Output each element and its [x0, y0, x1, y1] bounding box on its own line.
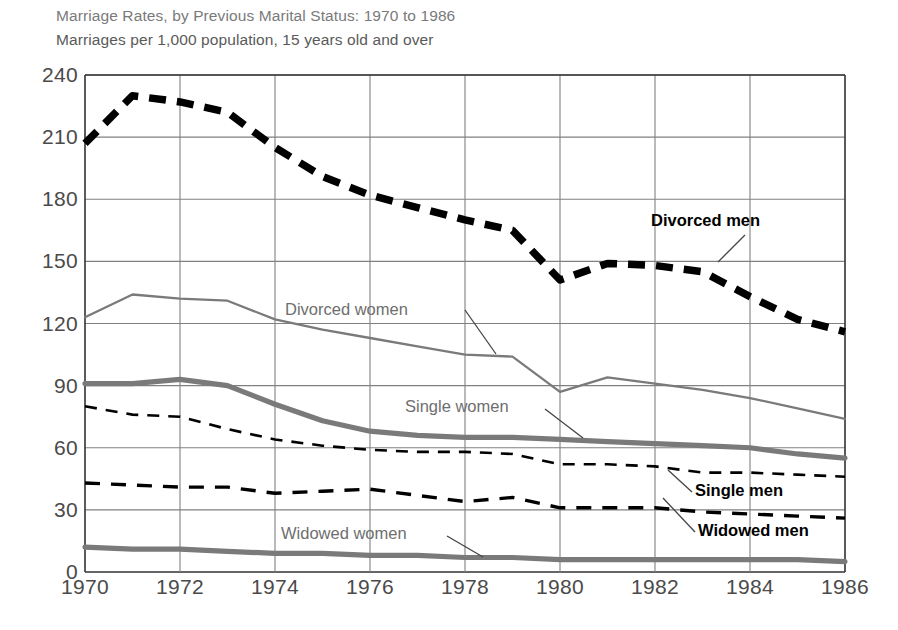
- y-tick-label: 150: [16, 249, 78, 273]
- y-axis-tick-labels: 0306090120150180210240: [0, 75, 78, 572]
- y-tick-label: 30: [16, 498, 78, 522]
- series-line: [85, 406, 845, 476]
- x-tick-label: 1972: [156, 575, 204, 599]
- marriage-rates-chart: Marriage Rates, by Previous Marital Stat…: [0, 0, 898, 630]
- y-tick-label: 60: [16, 436, 78, 460]
- y-tick-label: 120: [16, 312, 78, 336]
- series-label: Widowed women: [281, 524, 407, 543]
- chart-title: Marriage Rates, by Previous Marital Stat…: [56, 7, 455, 25]
- chart-subtitle: Marriages per 1,000 population, 15 years…: [56, 31, 434, 49]
- series-label: Single women: [405, 397, 509, 416]
- series-label: Widowed men: [698, 521, 809, 540]
- x-tick-label: 1978: [441, 575, 489, 599]
- x-axis-tick-labels: 197019721974197619781980198219841986: [85, 575, 845, 609]
- series-label: Single men: [695, 481, 783, 500]
- y-tick-label: 210: [16, 125, 78, 149]
- series-label: Divorced women: [285, 300, 408, 319]
- x-tick-label: 1976: [346, 575, 394, 599]
- x-tick-label: 1974: [251, 575, 299, 599]
- x-tick-label: 1986: [821, 575, 869, 599]
- series-label: Divorced men: [651, 211, 760, 230]
- x-tick-label: 1982: [631, 575, 679, 599]
- series-line: [85, 379, 845, 458]
- x-tick-label: 1980: [536, 575, 584, 599]
- x-tick-label: 1984: [726, 575, 774, 599]
- x-tick-label: 1970: [61, 575, 109, 599]
- y-tick-label: 90: [16, 374, 78, 398]
- y-tick-label: 180: [16, 187, 78, 211]
- series-line: [85, 547, 845, 561]
- y-tick-label: 240: [16, 63, 78, 87]
